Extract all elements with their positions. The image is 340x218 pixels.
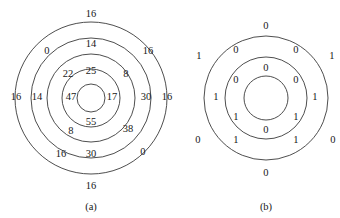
label-b-bottom-outer: 0	[263, 168, 268, 179]
label-b-upperleft-outer: 1	[196, 51, 201, 62]
label-b-lowerleft-core: 1	[233, 112, 238, 123]
label-b-bottom-core: 0	[263, 125, 268, 136]
panel-b-ring-core	[244, 76, 288, 120]
label-b-top-core: 0	[263, 63, 268, 74]
figure-root: 160161616160161414303022883825471755 (a)…	[0, 0, 340, 218]
label-b-upperright-middle: 0	[293, 45, 298, 56]
label-b-top-outer: 0	[263, 21, 268, 32]
label-b-lowerleft-outer: 0	[195, 135, 200, 146]
label-b-lowerright-core: 1	[293, 112, 298, 123]
panel-b-caption: (b)	[260, 202, 272, 213]
label-b-upperleft-middle: 0	[233, 45, 238, 56]
panel-b-rings	[0, 0, 340, 218]
label-b-upperright-core: 0	[293, 75, 298, 86]
label-b-left-outer: 1	[213, 92, 218, 103]
label-b-lowerright-outer: 0	[330, 135, 335, 146]
label-b-lowerright-middle: 1	[293, 135, 298, 146]
label-b-upperright-outer: 1	[329, 51, 334, 62]
label-b-right-outer: 1	[312, 92, 317, 103]
panel-b: 011110000011000110 (b)	[0, 0, 340, 218]
label-b-lowerleft-middle: 1	[233, 135, 238, 146]
panel-b-ring-outer	[204, 36, 328, 160]
label-b-upperleft-core: 0	[233, 75, 238, 86]
